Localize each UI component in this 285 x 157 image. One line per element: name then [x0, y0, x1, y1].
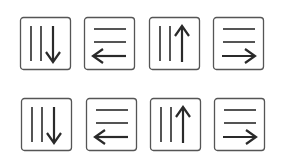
- rows-arrow-right-icon: [212, 16, 265, 71]
- rows-arrow-right-icon-glyph: [213, 97, 266, 152]
- columns-arrow-down-icon: [19, 16, 72, 71]
- columns-arrow-down-icon-glyph: [19, 16, 72, 71]
- columns-arrow-up-icon-glyph: [149, 97, 202, 152]
- columns-arrow-down-icon-glyph: [20, 97, 73, 152]
- rows-arrow-right-icon-glyph: [212, 16, 265, 71]
- columns-arrow-up-icon: [149, 97, 202, 152]
- columns-arrow-up-icon-glyph: [148, 16, 201, 71]
- rows-arrow-left-icon-glyph: [85, 97, 138, 152]
- rows-arrow-right-icon: [213, 97, 266, 152]
- columns-arrow-down-icon: [20, 97, 73, 152]
- rows-arrow-left-icon-glyph: [83, 16, 136, 71]
- rows-arrow-left-icon: [83, 16, 136, 71]
- rows-arrow-left-icon: [85, 97, 138, 152]
- columns-arrow-up-icon: [148, 16, 201, 71]
